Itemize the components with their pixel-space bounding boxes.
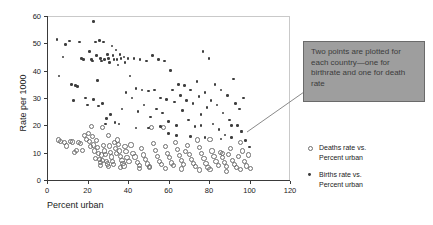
data-point-births	[169, 69, 172, 72]
data-point-births	[56, 38, 59, 41]
y-tick	[44, 43, 47, 44]
data-point-deaths	[228, 146, 233, 151]
data-point-deaths	[116, 142, 121, 147]
data-point-births	[161, 112, 164, 115]
callout-annotation: Two points are plotted for each country—…	[303, 41, 425, 102]
data-point-deaths	[224, 169, 229, 174]
data-point-births	[62, 56, 65, 59]
data-point-births	[78, 41, 81, 44]
data-point-births	[183, 84, 186, 87]
data-point-deaths	[106, 164, 111, 169]
data-point-births	[167, 120, 170, 123]
data-point-births	[185, 99, 188, 102]
data-point-births	[70, 83, 73, 86]
data-point-births	[104, 123, 107, 126]
data-point-births	[238, 108, 241, 111]
x-tick-label: 60	[164, 186, 172, 195]
data-point-births	[135, 87, 138, 90]
x-tick	[88, 181, 89, 184]
data-point-deaths	[80, 148, 85, 153]
data-point-deaths	[111, 162, 116, 167]
data-point-births	[187, 119, 190, 122]
data-point-deaths	[246, 152, 251, 157]
data-point-deaths	[98, 163, 103, 168]
data-point-births	[159, 125, 162, 128]
data-point-births	[204, 136, 207, 139]
data-point-births	[220, 89, 223, 92]
data-point-births	[244, 139, 247, 142]
y-tick-label: 50	[20, 39, 41, 48]
data-point-deaths	[118, 165, 123, 170]
x-tick	[250, 181, 251, 184]
data-point-deaths	[238, 140, 243, 145]
data-point-deaths	[248, 166, 253, 171]
data-point-deaths	[240, 148, 245, 153]
data-point-births	[234, 102, 237, 105]
data-point-births	[202, 50, 205, 53]
y-tick-label: 40	[20, 66, 41, 75]
data-point-deaths	[236, 154, 241, 159]
data-point-births	[232, 78, 235, 81]
data-point-births	[167, 132, 170, 135]
data-point-deaths	[100, 125, 105, 130]
open-circle-marker-icon	[308, 146, 313, 151]
data-point-births	[92, 20, 95, 23]
data-point-births	[147, 127, 150, 130]
data-point-deaths	[126, 159, 131, 164]
data-point-births	[116, 58, 119, 61]
data-point-births	[84, 97, 87, 100]
plot-area	[47, 16, 290, 180]
y-tick	[44, 16, 47, 17]
data-point-births	[129, 75, 132, 78]
data-point-births	[242, 97, 245, 100]
data-point-births	[147, 90, 150, 93]
data-point-births	[139, 58, 142, 61]
data-point-deaths	[185, 143, 190, 148]
data-point-deaths	[195, 137, 200, 142]
data-point-births	[111, 45, 114, 48]
x-tick	[128, 181, 129, 184]
data-point-births	[95, 54, 98, 57]
data-point-births	[155, 108, 158, 111]
data-point-births	[189, 89, 192, 92]
data-point-births	[115, 49, 118, 52]
x-axis-label: Percent urban	[47, 200, 104, 210]
data-point-births	[181, 109, 184, 112]
x-tick	[209, 181, 210, 184]
y-tick	[44, 71, 47, 72]
data-point-births	[124, 61, 127, 64]
x-tick	[290, 181, 291, 184]
data-point-deaths	[207, 137, 212, 142]
x-tick-label: 120	[284, 186, 297, 195]
data-point-births	[72, 99, 75, 102]
data-point-deaths	[95, 145, 100, 150]
data-point-births	[64, 43, 67, 46]
data-point-births	[135, 127, 138, 130]
data-point-deaths	[128, 142, 133, 147]
data-point-births	[92, 98, 95, 101]
data-point-births	[145, 60, 148, 63]
data-point-deaths	[175, 147, 180, 152]
data-point-births	[212, 123, 215, 126]
y-tick-label: 0	[20, 176, 41, 185]
x-tick-label: 40	[124, 186, 132, 195]
filled-circle-marker-icon	[308, 173, 311, 176]
legend-item-deaths: Deaths rate vs. Percent urban	[306, 143, 366, 162]
data-point-births	[230, 136, 233, 139]
y-tick	[44, 125, 47, 126]
data-point-births	[133, 57, 136, 60]
data-point-deaths	[207, 167, 212, 172]
data-point-births	[98, 39, 101, 42]
y-tick-label: 10	[20, 148, 41, 157]
data-point-births	[173, 101, 176, 104]
data-point-deaths	[101, 143, 106, 148]
x-tick	[169, 181, 170, 184]
data-point-deaths	[70, 139, 75, 144]
data-point-births	[121, 108, 124, 111]
data-point-deaths	[78, 141, 83, 146]
data-point-deaths	[106, 133, 111, 138]
data-point-births	[137, 110, 140, 113]
data-point-births	[230, 124, 233, 127]
data-point-births	[103, 58, 106, 61]
data-point-births	[76, 85, 79, 88]
